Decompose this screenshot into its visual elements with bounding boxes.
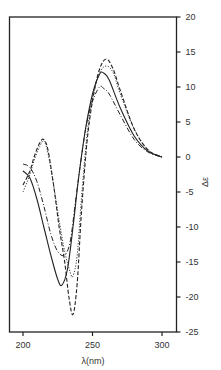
y-tick-label: 10	[186, 82, 196, 92]
y-tick-label: 20	[186, 12, 196, 22]
y-tick-label: 15	[186, 47, 196, 57]
x-axis: 200250300	[15, 332, 169, 350]
cd-spectrum-chart: 20151050-5-10-15-20-25 200250300 λ(nm) Δ…	[0, 0, 221, 370]
series-line-dashed	[23, 59, 162, 315]
plot-border	[10, 17, 177, 332]
y-tick-label: -15	[186, 257, 199, 267]
y-tick-label: -5	[186, 187, 194, 197]
series-lines	[23, 59, 162, 315]
x-tick-label: 250	[85, 340, 100, 350]
plot-frame	[10, 17, 177, 332]
y-tick-label: 5	[186, 117, 191, 127]
series-line-dotted	[23, 66, 162, 277]
y-tick-label: -25	[186, 327, 199, 337]
y-tick-label: -10	[186, 222, 199, 232]
x-tick-label: 200	[15, 340, 30, 350]
y-tick-label: 0	[186, 152, 191, 162]
y-axis: 20151050-5-10-15-20-25	[177, 12, 199, 337]
series-line-dash-dot	[23, 86, 162, 256]
y-axis-label: Δε	[200, 177, 210, 187]
y-tick-label: -20	[186, 292, 199, 302]
x-tick-label: 300	[154, 340, 169, 350]
x-axis-label: λ(nm)	[82, 356, 105, 366]
